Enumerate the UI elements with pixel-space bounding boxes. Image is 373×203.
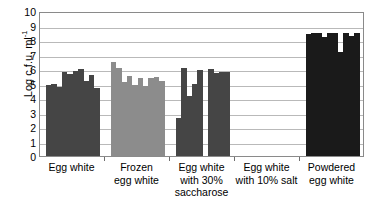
- y-tick-label: 6: [30, 65, 36, 76]
- x-axis-label: Powderedegg white: [293, 161, 370, 186]
- y-tick-label: 2: [30, 123, 36, 134]
- bar-chart: Log c.f.u. ml-1 109876543210 Egg whiteFr…: [0, 0, 373, 203]
- y-axis-ticks: 109876543210: [14, 12, 36, 157]
- y-tick-label: 7: [30, 50, 36, 61]
- bar: [94, 88, 100, 156]
- bar: [224, 72, 230, 156]
- x-axis-label-line: egg white: [293, 174, 370, 187]
- x-axis-label-line: saccharose: [163, 186, 240, 199]
- y-tick-label: 8: [30, 36, 36, 47]
- y-tick-label: 1: [30, 137, 36, 148]
- y-tick-label: 3: [30, 108, 36, 119]
- bars-layer: [40, 13, 363, 156]
- x-axis-label-line: Powdered: [293, 161, 370, 174]
- bar: [354, 33, 360, 156]
- bar: [197, 70, 203, 156]
- y-tick-label: 10: [24, 7, 36, 18]
- y-tick-label: 9: [30, 21, 36, 32]
- y-tick-label: 5: [30, 79, 36, 90]
- plot-area: [39, 12, 364, 157]
- bar: [159, 81, 165, 156]
- y-tick-label: 4: [30, 94, 36, 105]
- x-axis-labels: Egg whiteFrozenegg whiteEgg whitewith 30…: [39, 161, 364, 203]
